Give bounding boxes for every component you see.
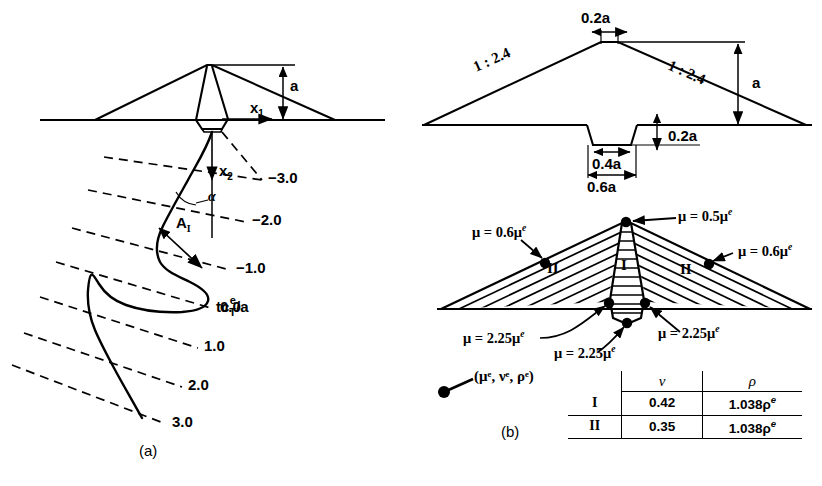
- amplitude-arrow-a: [159, 228, 202, 268]
- leader-crest: [633, 218, 676, 221]
- table-cell-rho-II-sup: e: [771, 418, 776, 429]
- time-scale-denominator: T: [229, 307, 236, 319]
- table-cell-rho-I-sup: e: [771, 394, 776, 405]
- table-cell-rho-I-value: 1.038ρ: [729, 397, 771, 412]
- table-cell-rho-I: 1.038ρe: [702, 392, 802, 416]
- amplitude-symbol: A: [176, 214, 187, 231]
- label-notch-bottom-width: 0.4a: [592, 156, 621, 171]
- mu-label-left-slope-text: μ = 0.6μ: [472, 224, 522, 240]
- point-right-slope: [704, 259, 714, 269]
- table-cell-rho-II-value: 1.038ρ: [729, 420, 771, 435]
- ray-label--3.0: −3.0: [268, 170, 298, 185]
- point-right-toe: [640, 298, 650, 308]
- label-notch-top-width: 0.6a: [587, 179, 616, 194]
- point-crest: [621, 217, 631, 227]
- zone-label-II-right: II: [680, 262, 692, 277]
- leader-left-slope: [521, 240, 542, 258]
- zone-label-II-left: II: [547, 261, 559, 276]
- legend-leader: [444, 379, 473, 392]
- label-axis-x1: x1: [250, 100, 264, 119]
- table-row: II 0.35 1.038ρe: [568, 415, 802, 439]
- ray--1.0: [72, 228, 230, 270]
- mu-label-left-slope: μ = 0.6μe: [472, 224, 526, 239]
- leader-right-slope: [713, 253, 733, 261]
- ray-label--1.0: −1.0: [236, 260, 266, 275]
- mu-label-right-slope-text: μ = 0.6μ: [738, 243, 788, 259]
- legend-label: (μᵉ, νᵉ, ρᵉ): [474, 369, 534, 384]
- label-time-scale: tceT/a: [216, 296, 249, 319]
- label-height-b: a: [752, 75, 760, 90]
- mu-label-right-toe-sup: e: [715, 324, 719, 334]
- ray-label-2.0: 2.0: [188, 377, 209, 392]
- table-header-nu: ν: [622, 371, 702, 392]
- axis-x1-subscript: 1: [258, 108, 264, 119]
- table-cell-nu-I: 0.42: [622, 392, 702, 416]
- ray-0.0: [56, 262, 214, 309]
- mu-label-left-slope-sup: e: [522, 223, 526, 233]
- label-amplitude-AI: AI: [176, 215, 191, 234]
- mu-label-right-toe: μ = 2.25μe: [658, 325, 720, 340]
- table-corner-cell: [568, 371, 622, 392]
- panel-a-graphics: [12, 65, 385, 424]
- label-height-a: a: [290, 78, 298, 93]
- time-scale-fraction: eT: [229, 295, 236, 318]
- panel-tag-a: (a): [139, 443, 157, 458]
- mu-label-left-toe: μ = 2.25μe: [463, 330, 525, 345]
- table-body: I 0.42 1.038ρe II 0.35 1.038ρe: [568, 392, 802, 439]
- zone-label-I: I: [621, 258, 627, 273]
- table-head: ν ρ: [568, 371, 802, 392]
- time-scale-suffix: /a: [236, 298, 249, 315]
- label-crest-width: 0.2a: [581, 10, 610, 25]
- mu-label-base-center-sup: e: [611, 344, 615, 354]
- table-header-row: ν ρ: [568, 371, 802, 392]
- mu-label-crest: μ = 0.5μe: [678, 208, 732, 223]
- label-angle-alpha: α: [208, 190, 216, 204]
- table-row-zone-I: I: [568, 392, 622, 416]
- mu-label-left-toe-sup: e: [520, 329, 524, 339]
- mu-label-crest-sup: e: [728, 207, 732, 217]
- notch-outline-b: [587, 125, 637, 145]
- mu-label-right-slope: μ = 0.6μe: [738, 243, 792, 258]
- mu-label-base-center: μ = 2.25μe: [554, 345, 616, 360]
- mu-label-base-center-text: μ = 2.25μ: [554, 345, 611, 361]
- label-axis-x2: x2: [219, 163, 233, 182]
- ray-label-3.0: 3.0: [172, 414, 193, 429]
- leader-left-toe: [540, 306, 605, 338]
- ray-label-1.0: 1.0: [204, 338, 225, 353]
- mu-label-right-toe-text: μ = 2.25μ: [658, 325, 715, 341]
- mu-label-crest-text: μ = 0.5μ: [678, 208, 728, 224]
- ray--3.0: [104, 157, 262, 180]
- amplitude-subscript: I: [187, 223, 191, 234]
- angle-alpha-leader: [196, 200, 208, 203]
- mu-label-right-slope-sup: e: [788, 242, 792, 252]
- table-row: I 0.42 1.038ρe: [568, 392, 802, 416]
- table-cell-nu-II: 0.35: [622, 415, 702, 439]
- material-properties-table: ν ρ I 0.42 1.038ρe II 0.35 1.038ρe: [568, 371, 802, 439]
- axis-x2-subscript: 2: [227, 171, 233, 182]
- label-notch-depth: 0.2a: [668, 128, 697, 143]
- table-header-rho: ρ: [702, 371, 802, 392]
- ray-label--2.0: −2.0: [252, 212, 282, 227]
- dashed-rays-a: [12, 157, 262, 424]
- time-scale-numerator: e: [229, 295, 236, 307]
- figure-root: a x1 x2 α AI −3.0 −2.0 −1.0 0.0 1.0 2.0 …: [0, 0, 822, 486]
- panel-tag-b: (b): [501, 424, 519, 439]
- mu-label-left-toe-text: μ = 2.25μ: [463, 330, 520, 346]
- table-row-zone-II: II: [568, 415, 622, 439]
- table-cell-rho-II: 1.038ρe: [702, 415, 802, 439]
- ray-1.0: [40, 297, 198, 348]
- time-scale-prefix: tc: [216, 298, 229, 315]
